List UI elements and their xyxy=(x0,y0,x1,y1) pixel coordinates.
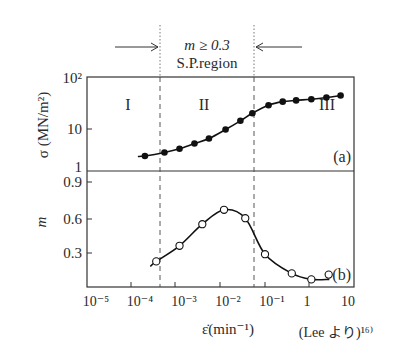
y-tick-label: 0.3 xyxy=(63,245,82,261)
x-axis-label: ε̇(min⁻¹) xyxy=(202,321,254,338)
data-point xyxy=(153,258,160,265)
data-point xyxy=(249,110,256,117)
panel-label-b: (b) xyxy=(332,266,351,284)
data-point xyxy=(308,276,315,283)
annotation-m-threshold: m ≥ 0.3 xyxy=(184,37,229,53)
x-axis: 10⁻⁵ 10⁻⁴ 10⁻³ 10⁻² 10⁻¹ 1 10 xyxy=(83,282,355,309)
data-point xyxy=(308,96,315,103)
region-label-1: I xyxy=(125,96,130,113)
left-arrow-icon xyxy=(115,43,158,51)
data-point xyxy=(199,221,206,228)
data-point xyxy=(237,118,244,125)
y-tick-label: 10² xyxy=(63,70,83,86)
y-axis-b: 0.9 0.6 0.3 xyxy=(63,174,92,261)
strain-rate-sensitivity-chart: m ≥ 0.3 S.P.region 10² 10 1 σ (MN/m²) 0.… xyxy=(0,0,408,360)
x-tick-label: 10⁻³ xyxy=(171,294,197,309)
y-tick-label: 0.9 xyxy=(63,174,82,190)
data-point xyxy=(191,140,198,147)
y-axis-a-label: σ (MN/m²) xyxy=(35,92,52,158)
data-point xyxy=(206,135,213,142)
x-tick-label: 10⁻⁵ xyxy=(83,294,109,309)
y-axis-b-label: m xyxy=(33,216,49,227)
y-tick-label: 10 xyxy=(67,121,82,137)
x-tick-label: 10⁻¹ xyxy=(259,294,285,309)
data-point xyxy=(242,215,249,222)
annotation-sp-region: S.P.region xyxy=(177,55,238,71)
data-point xyxy=(220,206,227,213)
data-point xyxy=(288,270,295,277)
data-point xyxy=(142,153,149,160)
data-point xyxy=(222,126,229,133)
right-arrow-icon xyxy=(256,43,302,51)
data-point xyxy=(176,242,183,249)
data-point xyxy=(325,271,332,278)
x-tick-label: 10 xyxy=(341,294,355,309)
source-citation: (Lee より)¹⁶⁾ xyxy=(299,325,373,341)
data-point xyxy=(261,251,268,258)
data-point xyxy=(279,98,286,105)
y-tick-label: 1 xyxy=(75,159,83,175)
data-point xyxy=(176,146,183,153)
data-point xyxy=(265,102,272,109)
x-tick-label: 10⁻² xyxy=(215,294,241,309)
panel-label-a: (a) xyxy=(333,148,351,166)
data-point xyxy=(293,97,300,104)
region-label-2: II xyxy=(199,96,210,113)
x-tick-label: 1 xyxy=(304,294,311,309)
data-point xyxy=(161,149,168,156)
stress-curve xyxy=(138,96,341,157)
data-point xyxy=(337,92,344,99)
data-point xyxy=(323,94,330,101)
m-data-points xyxy=(153,206,333,283)
y-tick-label: 0.6 xyxy=(63,211,82,227)
x-tick-label: 10⁻⁴ xyxy=(127,294,153,309)
stress-data-points xyxy=(142,92,344,159)
